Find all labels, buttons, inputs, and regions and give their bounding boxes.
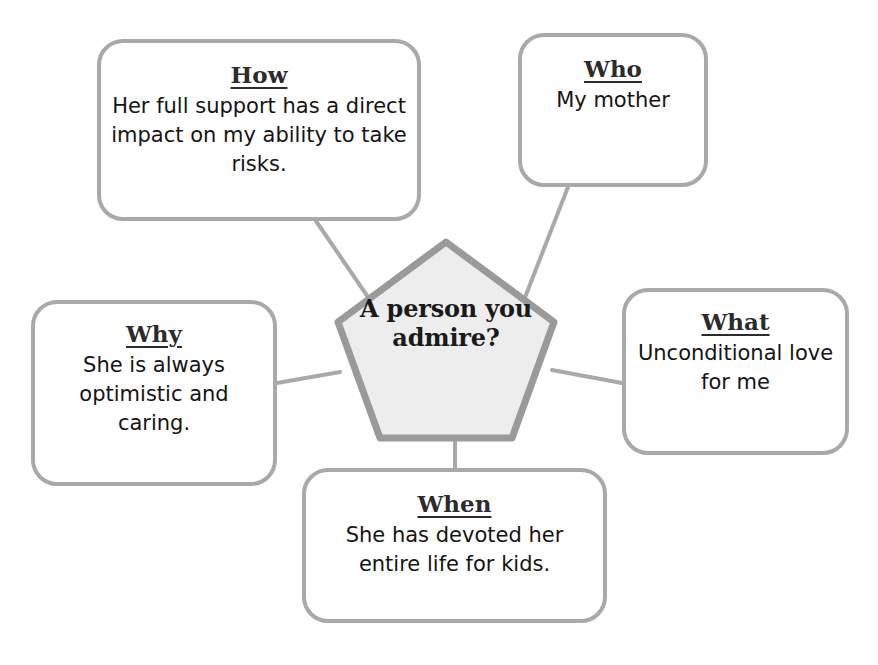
- qbox-title-when: When: [418, 490, 492, 517]
- qbox-body-why: She is always optimistic and caring.: [35, 351, 273, 438]
- qbox-who[interactable]: Who My mother: [518, 33, 708, 187]
- qbox-title-how: How: [231, 61, 288, 88]
- qbox-how[interactable]: How Her full support has a direct impact…: [97, 39, 421, 221]
- diagram-canvas: A person you admire? How Her full suppor…: [0, 0, 878, 665]
- qbox-title-what: What: [701, 308, 769, 335]
- qbox-when[interactable]: When She has devoted her entire life for…: [302, 468, 607, 623]
- qbox-why[interactable]: Why She is always optimistic and caring.: [31, 300, 277, 486]
- qbox-body-who: My mother: [522, 86, 704, 115]
- qbox-body-how: Her full support has a direct impact on …: [101, 92, 417, 179]
- qbox-title-who: Who: [584, 55, 642, 82]
- qbox-body-when: She has devoted her entire life for kids…: [306, 521, 603, 579]
- connector-what: [552, 370, 622, 383]
- qbox-what[interactable]: What Unconditional love for me: [622, 288, 849, 455]
- center-pentagon-node[interactable]: A person you admire?: [330, 234, 562, 446]
- center-label: A person you admire?: [330, 294, 562, 353]
- qbox-body-what: Unconditional love for me: [626, 339, 845, 397]
- qbox-title-why: Why: [126, 320, 182, 347]
